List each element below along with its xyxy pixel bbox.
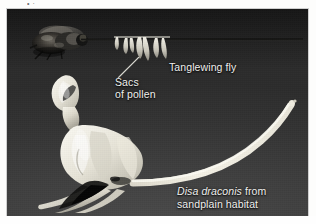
clipped-caption-fragment: • · [27, 0, 57, 5]
figure-photograph: Tanglewing fly Sacs of pollen Disa draco… [7, 9, 308, 216]
page-bottom-margin [0, 216, 316, 224]
scanned-page: • · [0, 0, 316, 224]
tanglewing-fly-body [29, 21, 91, 61]
disa-draconis-flower [29, 71, 304, 213]
